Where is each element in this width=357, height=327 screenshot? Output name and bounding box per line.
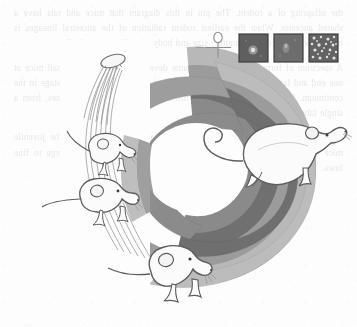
scanned-page: the offspring of a rodent. The pin in th… <box>0 0 357 327</box>
figure-artwork <box>0 0 357 327</box>
micrograph-3 <box>309 34 338 62</box>
micrograph-2 <box>274 34 303 62</box>
micrograph-1 <box>239 34 268 62</box>
micrograph-insets <box>239 34 338 62</box>
